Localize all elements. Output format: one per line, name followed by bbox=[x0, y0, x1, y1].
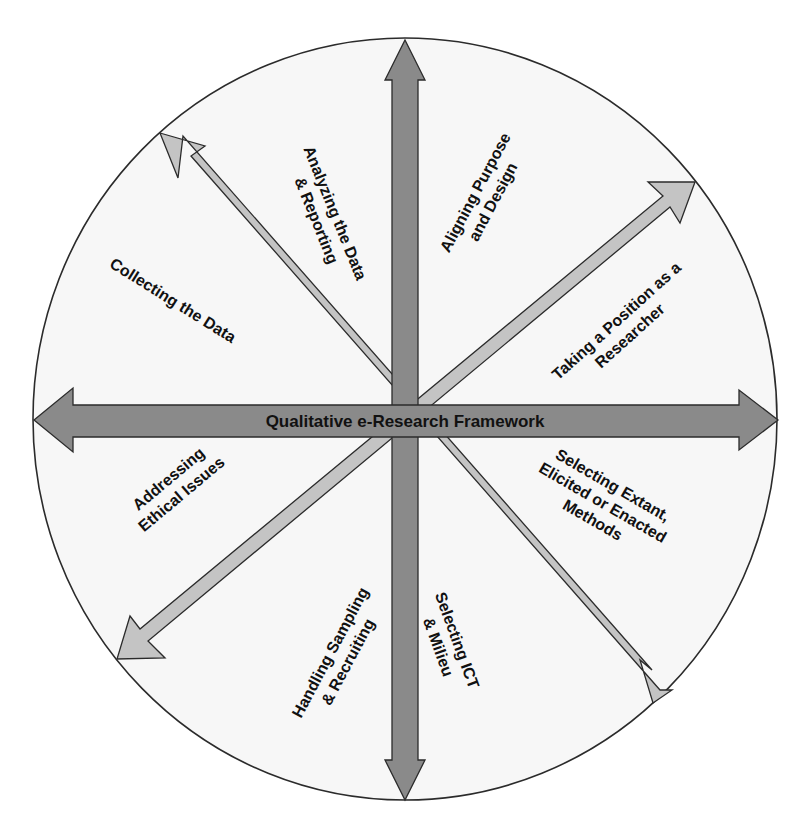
center-label: Qualitative e-Research Framework bbox=[266, 412, 545, 431]
qualitative-e-research-framework-diagram: Qualitative e-Research Framework Analyzi… bbox=[0, 0, 805, 833]
